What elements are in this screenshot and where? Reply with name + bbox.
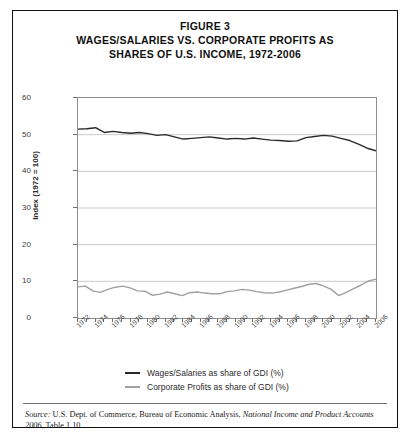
legend-swatch-profits-icon xyxy=(125,386,140,388)
legend-label-corporate-profits: Corporate Profits as share of GDI (%) xyxy=(147,382,289,392)
y-tick-mark xyxy=(73,317,77,318)
source-text-part-2: , Table 1.10. xyxy=(42,421,83,430)
source-prefix: Source: xyxy=(25,410,51,419)
figure-title-line-2: WAGES/SALARIES VS. CORPORATE PROFITS AS xyxy=(13,33,397,47)
y-tick-label: 40 xyxy=(0,166,31,175)
y-tick-label: 50 xyxy=(0,129,31,138)
y-tick-label: 10 xyxy=(0,276,31,285)
source-note: Source: U.S. Dept. of Commerce, Bureau o… xyxy=(25,409,387,431)
figure-title-block: FIGURE 3 WAGES/SALARIES VS. CORPORATE PR… xyxy=(13,19,397,61)
line-series-wages xyxy=(78,128,376,151)
y-tick-mark xyxy=(73,244,77,245)
y-tick-label: 30 xyxy=(0,203,31,212)
y-tick-mark xyxy=(73,134,77,135)
chart-area: Index (1972 = 100) 0102030405060 1972197… xyxy=(13,73,399,373)
source-divider xyxy=(23,403,387,404)
legend-swatch-wages-icon xyxy=(125,372,140,374)
y-tick-label: 0 xyxy=(0,313,31,322)
grid-lines xyxy=(78,135,376,282)
legend-item-corporate-profits: Corporate Profits as share of GDI (%) xyxy=(13,380,399,394)
legend-item-wages: Wages/Salaries as share of GDI (%) xyxy=(13,366,399,380)
y-tick-mark xyxy=(73,207,77,208)
plot-frame xyxy=(77,97,377,319)
y-tick-label: 60 xyxy=(0,93,31,102)
figure-title-line-3: SHARES OF U.S. INCOME, 1972-2006 xyxy=(13,47,397,61)
y-axis-label: Index (1972 = 100) xyxy=(31,116,40,256)
source-text-part-1: U.S. Dept. of Commerce, Bureau of Econom… xyxy=(51,410,243,419)
legend-label-wages: Wages/Salaries as share of GDI (%) xyxy=(147,368,284,378)
y-tick-mark xyxy=(73,170,77,171)
y-tick-mark xyxy=(73,97,77,98)
y-tick-mark xyxy=(73,280,77,281)
figure-container: FIGURE 3 WAGES/SALARIES VS. CORPORATE PR… xyxy=(12,10,398,428)
chart-legend: Wages/Salaries as share of GDI (%) Corpo… xyxy=(13,366,399,394)
y-tick-label: 20 xyxy=(0,239,31,248)
chart-plot-svg xyxy=(78,98,376,318)
figure-title-line-1: FIGURE 3 xyxy=(13,19,397,33)
